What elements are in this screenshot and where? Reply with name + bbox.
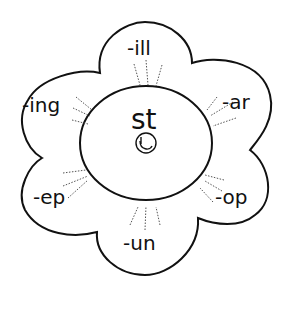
petal-label-upper-left: -ing — [22, 95, 60, 115]
center-label: st — [131, 106, 157, 134]
smiley-face-icon — [136, 133, 156, 153]
petal-label-lower-left: -ep — [33, 187, 65, 207]
petal-label-top: -ill — [127, 38, 151, 58]
petal-label-bottom: -un — [123, 233, 156, 253]
petal-label-lower-right: -op — [215, 187, 248, 207]
petal-label-upper-right: -ar — [222, 92, 250, 112]
